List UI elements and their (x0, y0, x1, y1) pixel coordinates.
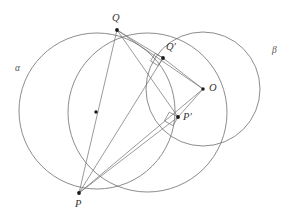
segment-p-o (79, 89, 203, 193)
segment-q-o (117, 30, 203, 89)
geometry-figure: α β Q Q′ O P′ P (0, 0, 294, 223)
point-o-dot (201, 87, 204, 90)
point-p-dot (77, 191, 81, 195)
label-point-o: O (209, 83, 217, 94)
label-circle-alpha: α (15, 64, 20, 74)
segment-p-qprime (79, 58, 163, 193)
label-point-p: P (75, 199, 81, 210)
circle-through-q-qprime-pprime-p (68, 33, 227, 192)
segment-qprime-o (163, 58, 203, 89)
label-circle-beta: β (272, 46, 277, 56)
label-point-q: Q (112, 13, 120, 24)
label-point-qprime: Q′ (166, 42, 176, 53)
point-qprime-dot (161, 56, 165, 60)
geometry-canvas (0, 0, 294, 223)
center-alpha-dot (94, 110, 97, 113)
point-pprime-dot (176, 115, 180, 119)
point-q-dot (115, 28, 119, 32)
label-point-pprime: P′ (183, 112, 192, 123)
